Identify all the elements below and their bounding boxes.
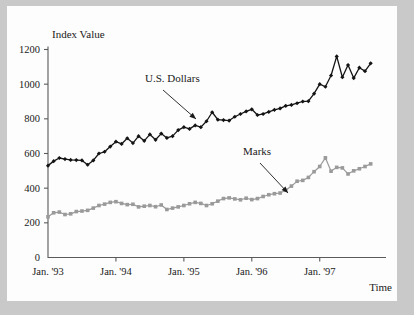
data-point-marker: [154, 205, 158, 209]
data-point-marker: [69, 158, 73, 162]
data-point-marker: [233, 197, 237, 201]
data-point-marker: [216, 199, 220, 203]
data-point-marker: [301, 179, 305, 183]
data-point-marker: [137, 205, 141, 209]
figure-container: 020040060080010001200Jan. '93Jan. '94Jan…: [0, 0, 414, 315]
data-point-marker: [273, 192, 277, 196]
annotation-label: Marks: [243, 145, 271, 157]
data-point-marker: [103, 202, 107, 206]
data-point-marker: [329, 73, 333, 77]
data-point-marker: [63, 157, 67, 161]
x-tick-label: Jan. '96: [236, 266, 268, 277]
y-tick-label: 800: [24, 113, 40, 124]
data-point-marker: [340, 75, 344, 79]
data-point-marker: [205, 204, 209, 208]
data-point-marker: [323, 85, 327, 89]
series-path: [48, 56, 371, 165]
annotation-u-s-dollars: U.S. Dollars: [145, 72, 200, 119]
annotation-marks: Marks: [243, 145, 288, 193]
y-tick-label: 600: [24, 148, 40, 159]
data-point-marker: [244, 109, 248, 113]
data-point-marker: [267, 193, 271, 197]
data-point-marker: [341, 166, 345, 170]
data-point-marker: [193, 201, 197, 205]
data-point-marker: [227, 196, 231, 200]
data-point-marker: [142, 204, 146, 208]
data-point-marker: [324, 156, 328, 160]
data-point-marker: [159, 203, 163, 207]
data-point-marker: [222, 197, 226, 201]
x-axis-ticks: Jan. '93Jan. '94Jan. '95Jan. '96Jan. '97: [32, 258, 335, 277]
data-point-marker: [97, 204, 101, 208]
data-point-marker: [363, 165, 367, 169]
data-point-marker: [295, 101, 299, 105]
x-tick-label: Jan. '94: [100, 266, 132, 277]
data-point-marker: [284, 104, 288, 108]
data-point-marker: [256, 197, 260, 201]
data-point-marker: [86, 209, 90, 213]
data-point-marker: [369, 162, 373, 166]
data-point-marker: [125, 203, 129, 207]
data-point-marker: [346, 172, 350, 176]
data-point-marker: [335, 166, 339, 170]
data-point-marker: [188, 202, 192, 206]
data-point-marker: [80, 209, 84, 213]
annotation-arrow-shaft: [163, 90, 196, 119]
data-point-marker: [318, 165, 322, 169]
data-point-marker: [307, 176, 311, 180]
data-point-marker: [250, 198, 254, 202]
data-point-marker: [239, 198, 243, 202]
data-point-marker: [114, 200, 118, 204]
data-point-marker: [290, 184, 294, 188]
series-path: [48, 158, 371, 217]
data-point-marker: [261, 112, 265, 116]
y-tick-label: 1000: [19, 79, 40, 90]
data-point-marker: [238, 112, 242, 116]
data-point-marker: [131, 202, 135, 206]
data-point-marker: [244, 196, 248, 200]
data-point-marker: [329, 169, 333, 173]
data-point-marker: [199, 202, 203, 206]
data-point-marker: [171, 206, 175, 210]
data-point-marker: [289, 103, 293, 107]
data-point-marker: [352, 169, 356, 173]
y-tick-label: 1200: [19, 44, 40, 55]
data-point-marker: [165, 208, 169, 212]
data-point-marker: [63, 213, 67, 217]
data-point-marker: [108, 201, 112, 205]
y-tick-label: 200: [24, 217, 40, 228]
data-point-marker: [272, 108, 276, 112]
data-point-marker: [335, 54, 339, 58]
data-point-marker: [358, 167, 362, 171]
data-point-marker: [176, 205, 180, 209]
data-point-marker: [69, 212, 73, 216]
x-tick-label: Jan. '97: [304, 266, 336, 277]
data-point-marker: [120, 202, 124, 206]
data-point-marker: [312, 170, 316, 174]
data-point-marker: [74, 158, 78, 162]
x-tick-label: Jan. '95: [168, 266, 200, 277]
data-point-marker: [301, 99, 305, 103]
data-point-marker: [346, 63, 350, 67]
data-point-marker: [91, 206, 95, 210]
y-tick-label: 400: [24, 183, 40, 194]
data-point-marker: [182, 204, 186, 208]
data-point-marker: [46, 215, 50, 219]
data-point-marker: [221, 118, 225, 122]
y-axis-ticks: 020040060080010001200: [19, 44, 48, 263]
data-point-marker: [295, 179, 299, 183]
x-axis-title: Time: [369, 281, 392, 293]
series-marks: [46, 156, 372, 219]
data-point-marker: [261, 195, 265, 199]
data-point-marker: [267, 110, 271, 114]
y-axis-title: Index Value: [52, 28, 105, 40]
y-tick-label: 0: [35, 252, 40, 263]
data-point-marker: [58, 210, 62, 214]
series-u-s-dollars: [46, 54, 373, 167]
x-tick-label: Jan. '93: [32, 266, 64, 277]
data-point-marker: [210, 202, 214, 206]
data-point-marker: [75, 210, 79, 214]
data-point-marker: [52, 211, 56, 215]
line-chart: 020040060080010001200Jan. '93Jan. '94Jan…: [0, 0, 414, 315]
data-point-marker: [148, 204, 152, 208]
